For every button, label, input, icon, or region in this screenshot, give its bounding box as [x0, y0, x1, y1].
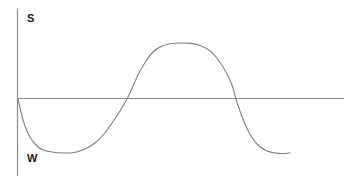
y-axis-top-label: S: [27, 13, 34, 24]
figure: S W: [0, 0, 353, 183]
wave-svg: [0, 0, 353, 183]
y-axis-bottom-label: W: [27, 153, 37, 164]
